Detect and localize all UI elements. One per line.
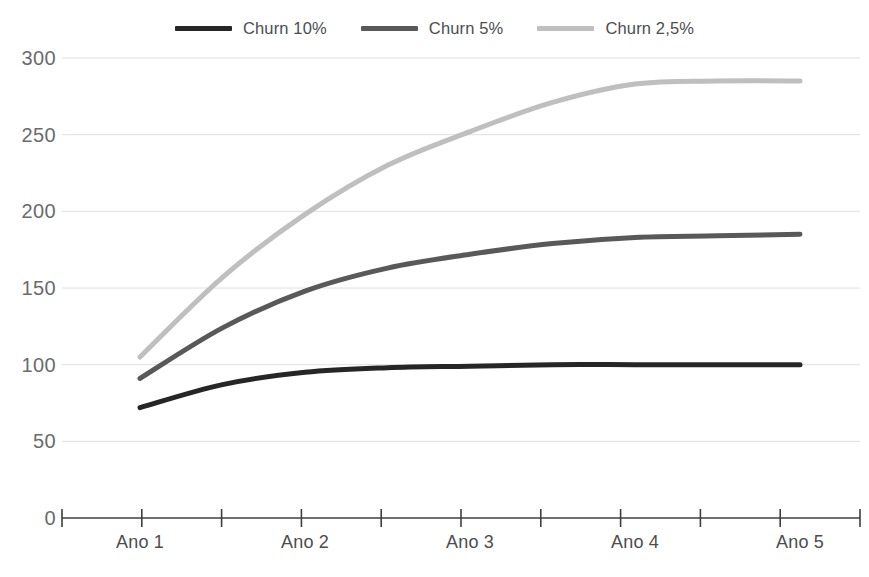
y-axis-tick-label: 50 [2,431,56,451]
gridlines [62,58,860,441]
plot-area: 300250200150100500 Ano 1Ano 2Ano 3Ano 4A… [0,0,869,577]
x-axis-tick-labels: Ano 1Ano 2Ano 3Ano 4Ano 5 [0,531,869,561]
y-axis-tick-label: 100 [2,355,56,375]
plot-svg [0,0,869,577]
y-axis-tick-label: 300 [2,48,56,68]
series-line-churn-10 [140,365,800,408]
x-axis-tick-label: Ano 5 [740,531,860,553]
series-line-churn-5 [140,234,800,378]
series-lines [140,81,800,408]
y-axis-tick-labels: 300250200150100500 [0,0,56,577]
x-axis-tick-label: Ano 3 [410,531,530,553]
series-line-churn-2-5 [140,81,800,357]
x-axis-tick-label: Ano 2 [245,531,365,553]
y-axis-tick-label: 200 [2,201,56,221]
y-axis-tick-label: 250 [2,125,56,145]
y-axis-tick-label: 0 [2,508,56,528]
line-chart: Churn 10% Churn 5% Churn 2,5% 3002502001… [0,0,869,577]
y-axis-tick-label: 150 [2,278,56,298]
x-axis-line [62,509,860,527]
x-axis-tick-label: Ano 1 [80,531,200,553]
x-axis-tick-label: Ano 4 [575,531,695,553]
